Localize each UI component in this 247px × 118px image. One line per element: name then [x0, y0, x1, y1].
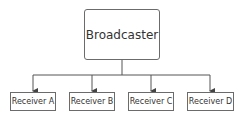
receiver-b-label: Receiver B	[71, 97, 114, 106]
receiver-d-node: Receiver D	[187, 92, 234, 111]
broadcaster-node: Broadcaster	[84, 9, 160, 60]
receiver-a-label: Receiver A	[12, 97, 55, 106]
receiver-a-node: Receiver A	[10, 92, 56, 111]
broadcaster-label: Broadcaster	[86, 28, 158, 42]
receiver-c-label: Receiver C	[130, 97, 173, 106]
receiver-b-node: Receiver B	[69, 92, 115, 111]
receiver-d-label: Receiver D	[189, 97, 232, 106]
receiver-c-node: Receiver C	[128, 92, 174, 111]
